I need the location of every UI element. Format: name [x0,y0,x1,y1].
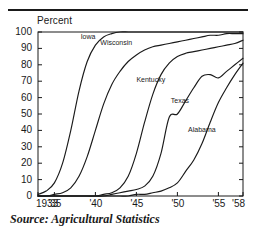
x-tick-label: '58 [232,199,245,209]
y-tick-label: 50 [6,109,32,119]
x-tick-label: '45 [130,199,143,209]
series-label-texas: Texas [171,97,189,104]
y-tick-label: 40 [6,125,32,135]
y-tick-label: 70 [6,76,32,86]
y-tick-label: 90 [6,43,32,53]
y-tick-label: 10 [6,175,32,185]
series-line-wisconsin [38,34,243,197]
x-tick-label: '50 [171,199,184,209]
series-label-iowa: Iowa [81,33,96,40]
x-tick-label: '35 [48,199,61,209]
figure-hybrid-corn-adoption: Percent 0102030405060708090100 1933'35'4… [0,0,256,231]
y-tick-label: 20 [6,158,32,168]
chart-plot-area [0,0,256,231]
y-tick-label: 30 [6,142,32,152]
x-tick-label: '40 [89,199,102,209]
y-tick-label: 0 [6,191,32,201]
y-tick-label: 80 [6,60,32,70]
y-tick-label: 60 [6,93,32,103]
source-note: Source: Agricultural Statistics [10,212,160,227]
series-label-alabama: Alabama [188,126,216,133]
series-label-wisconsin: Wisconsin [100,39,132,46]
y-tick-label: 100 [6,27,32,37]
x-tick-label: '55 [212,199,225,209]
series-label-kentucky: Kentucky [136,76,165,83]
series-line-iowa [38,32,243,194]
